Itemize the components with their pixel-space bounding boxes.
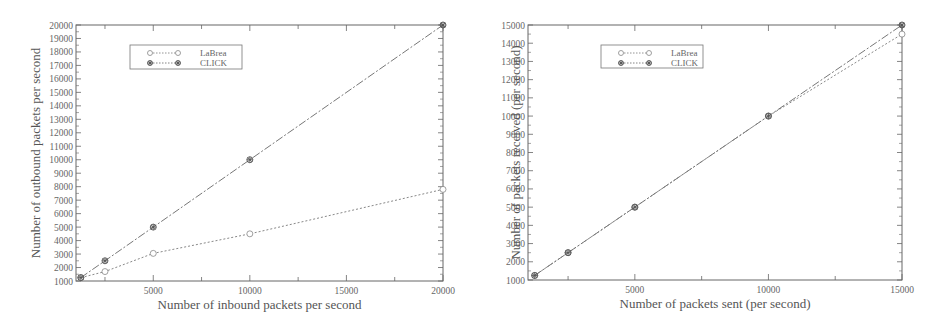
legend: LaBreaCLICK xyxy=(130,45,242,69)
series-labrea xyxy=(78,186,446,280)
x-tick-label: 10000 xyxy=(238,286,262,296)
y-axis-title: Number of packets received (per second) xyxy=(508,45,523,259)
x-axis-title: Number of inbound packets per second xyxy=(158,297,362,312)
y-tick-label: 1000 xyxy=(506,276,525,286)
series-click xyxy=(532,22,905,278)
x-tick-label: 10000 xyxy=(757,285,781,295)
y-tick-label: 20000 xyxy=(49,21,73,31)
y-tick-label: 18000 xyxy=(49,47,73,57)
y-tick-label: 8000 xyxy=(54,182,73,192)
legend: LaBreaCLICK xyxy=(601,45,703,68)
x-tick-label: 15000 xyxy=(890,285,914,295)
series-labrea xyxy=(532,31,905,278)
x-axis-title: Number of packets sent (per second) xyxy=(620,296,811,311)
received-vs-sent-chart: 1000200030004000500060007000800090001000… xyxy=(465,0,931,319)
y-tick-label: 2000 xyxy=(54,263,73,273)
y-axis-title: Number of outbound packets per second xyxy=(28,47,43,258)
y-tick-label: 4000 xyxy=(54,236,73,246)
x-tick-label: 15000 xyxy=(335,286,359,296)
y-tick-label: 15000 xyxy=(501,21,525,31)
legend-label-click: CLICK xyxy=(671,58,699,68)
y-tick-label: 5000 xyxy=(54,223,73,233)
y-tick-label: 13000 xyxy=(49,115,73,125)
legend-label-labrea: LaBrea xyxy=(671,48,697,58)
y-tick-label: 14000 xyxy=(49,101,73,111)
y-tick-label: 12000 xyxy=(49,128,73,138)
y-tick-label: 7000 xyxy=(54,196,73,206)
x-tick-label: 5000 xyxy=(144,286,163,296)
y-tick-label: 19000 xyxy=(49,34,73,44)
y-tick-label: 3000 xyxy=(54,250,73,260)
y-tick-label: 1000 xyxy=(54,277,73,287)
y-tick-label: 17000 xyxy=(49,61,73,71)
legend-label-labrea: LaBrea xyxy=(200,48,226,58)
y-tick-label: 6000 xyxy=(54,209,73,219)
y-tick-label: 11000 xyxy=(50,142,74,152)
y-tick-label: 9000 xyxy=(54,169,73,179)
y-tick-label: 16000 xyxy=(49,74,73,84)
outbound-vs-inbound-chart: 1000200030004000500060007000800090001000… xyxy=(0,0,465,319)
y-tick-label: 15000 xyxy=(49,88,73,98)
x-tick-label: 20000 xyxy=(431,286,455,296)
x-tick-label: 5000 xyxy=(625,285,644,295)
y-tick-label: 10000 xyxy=(49,155,73,165)
legend-label-click: CLICK xyxy=(200,58,228,68)
